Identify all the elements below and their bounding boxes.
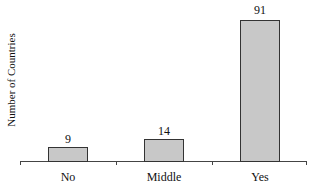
- x-axis-tick: [116, 161, 117, 165]
- x-axis-tick: [212, 161, 213, 165]
- y-axis-label: Number of Countries: [5, 30, 19, 130]
- x-tick-label-no: No: [28, 170, 108, 185]
- x-axis-tick: [306, 161, 307, 165]
- x-tick-label-yes: Yes: [220, 170, 300, 185]
- bar-yes: [240, 20, 280, 162]
- data-label-yes: 91: [240, 3, 280, 18]
- x-tick-label-middle: Middle: [124, 170, 204, 185]
- data-label-no: 9: [48, 132, 88, 147]
- data-label-middle: 14: [144, 124, 184, 139]
- bar-no: [48, 147, 88, 162]
- x-axis-tick: [20, 161, 21, 165]
- bar-middle: [144, 139, 184, 162]
